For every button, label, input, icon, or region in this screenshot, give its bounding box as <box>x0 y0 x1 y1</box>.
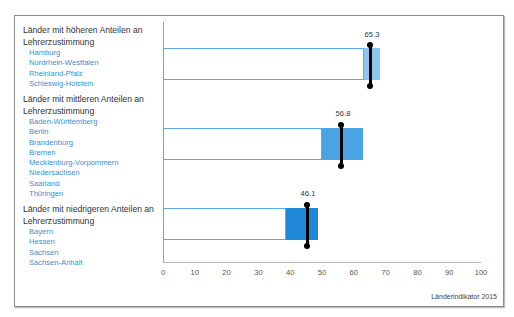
bar-range-white-high <box>163 48 364 80</box>
group-title: Lehrerzustimmung <box>23 215 154 227</box>
state-label: Saarland <box>23 179 144 189</box>
group-title: Länder mit höheren Anteilen an <box>23 24 142 36</box>
state-label: Thüringen <box>23 189 144 199</box>
state-label: Bayern <box>23 227 154 237</box>
x-tick-label: 40 <box>286 268 294 277</box>
x-tick-label: 20 <box>222 268 230 277</box>
marker-line-low <box>306 205 309 246</box>
bar-range-blue-low <box>286 208 318 240</box>
x-tick-label: 30 <box>254 268 262 277</box>
group-title: Länder mit niedrigeren Anteilen an <box>23 203 154 215</box>
source-note: Länderindikator 2015 <box>431 293 497 300</box>
marker-dot <box>304 202 310 208</box>
bar-range-white-mid <box>163 128 322 160</box>
value-label-low: 46.1 <box>301 189 316 198</box>
bar-range-blue-mid <box>322 128 363 160</box>
state-label: Sachsen-Anhalt <box>23 258 154 268</box>
legend-group-low: Länder mit niedrigeren Anteilen an Lehre… <box>23 203 154 268</box>
marker-dot <box>304 243 310 249</box>
x-axis <box>163 262 481 263</box>
state-label: Niedersachsen <box>23 168 144 178</box>
state-label: Sachsen <box>23 248 154 258</box>
value-label-high: 65.3 <box>365 30 380 39</box>
state-label: Baden-Württemberg <box>23 117 144 127</box>
x-tick-label: 70 <box>381 268 389 277</box>
state-label: Hessen <box>23 237 154 247</box>
state-label: Nordrhein-Westfalen <box>23 58 142 68</box>
x-tick-label: 50 <box>318 268 326 277</box>
bar-range-white-low <box>163 208 286 240</box>
state-label: Brandenburg <box>23 138 144 148</box>
marker-dot <box>367 83 373 89</box>
state-label: Hamburg <box>23 48 142 58</box>
group-title: Lehrerzustimmung <box>23 105 144 117</box>
marker-line-mid <box>340 125 343 166</box>
marker-dot <box>338 122 344 128</box>
state-label: Berlin <box>23 127 144 137</box>
marker-dot <box>367 42 373 48</box>
bar-range-blue-high <box>364 48 380 80</box>
x-tick-label: 10 <box>191 268 199 277</box>
state-label: Bremen <box>23 148 144 158</box>
marker-line-high <box>369 45 372 86</box>
state-label: Rheinland-Pfalz <box>23 69 142 79</box>
value-label-mid: 56.8 <box>336 109 351 118</box>
x-tick-label: 0 <box>161 268 165 277</box>
group-title: Lehrerzustimmung <box>23 36 142 48</box>
marker-dot <box>338 163 344 169</box>
group-title: Länder mit mittleren Anteilen an <box>23 93 144 105</box>
x-tick-label: 100 <box>475 268 488 277</box>
chart-frame: Länder mit höheren Anteilen an Lehrerzus… <box>14 15 504 307</box>
legend-group-mid: Länder mit mittleren Anteilen an Lehrerz… <box>23 93 144 199</box>
x-tick-label: 90 <box>445 268 453 277</box>
legend-group-high: Länder mit höheren Anteilen an Lehrerzus… <box>23 24 142 89</box>
x-tick-label: 60 <box>350 268 358 277</box>
x-tick-label: 80 <box>413 268 421 277</box>
state-label: Mecklenburg-Vorpommern <box>23 158 144 168</box>
state-label: Schleswig-Holstein <box>23 79 142 89</box>
